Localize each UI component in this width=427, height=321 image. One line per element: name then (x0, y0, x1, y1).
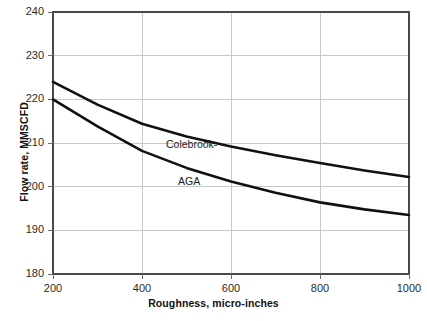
y-tick-label-240: 240 (4, 6, 44, 17)
x-tick-label-400: 400 (120, 283, 164, 294)
x-tick-label-800: 800 (298, 283, 342, 294)
x-axis-title: Roughness, micro-inches (0, 297, 427, 309)
y-axis-title: Flow rate, MMSCFD (18, 72, 30, 232)
y-tick-label-180: 180 (4, 268, 44, 279)
series-annotation-colebrook: Colebrook- (166, 139, 217, 150)
x-tick-label-200: 200 (31, 283, 75, 294)
flow-rate-vs-roughness-chart: 240 230 220 210 200 190 180 200 400 600 … (0, 0, 427, 321)
series-annotation-aga: AGA (178, 176, 200, 187)
y-tick-label-230: 230 (4, 50, 44, 61)
plot-canvas (0, 0, 427, 321)
x-tick-label-600: 600 (209, 283, 253, 294)
x-tick-label-1000: 1000 (387, 283, 427, 294)
